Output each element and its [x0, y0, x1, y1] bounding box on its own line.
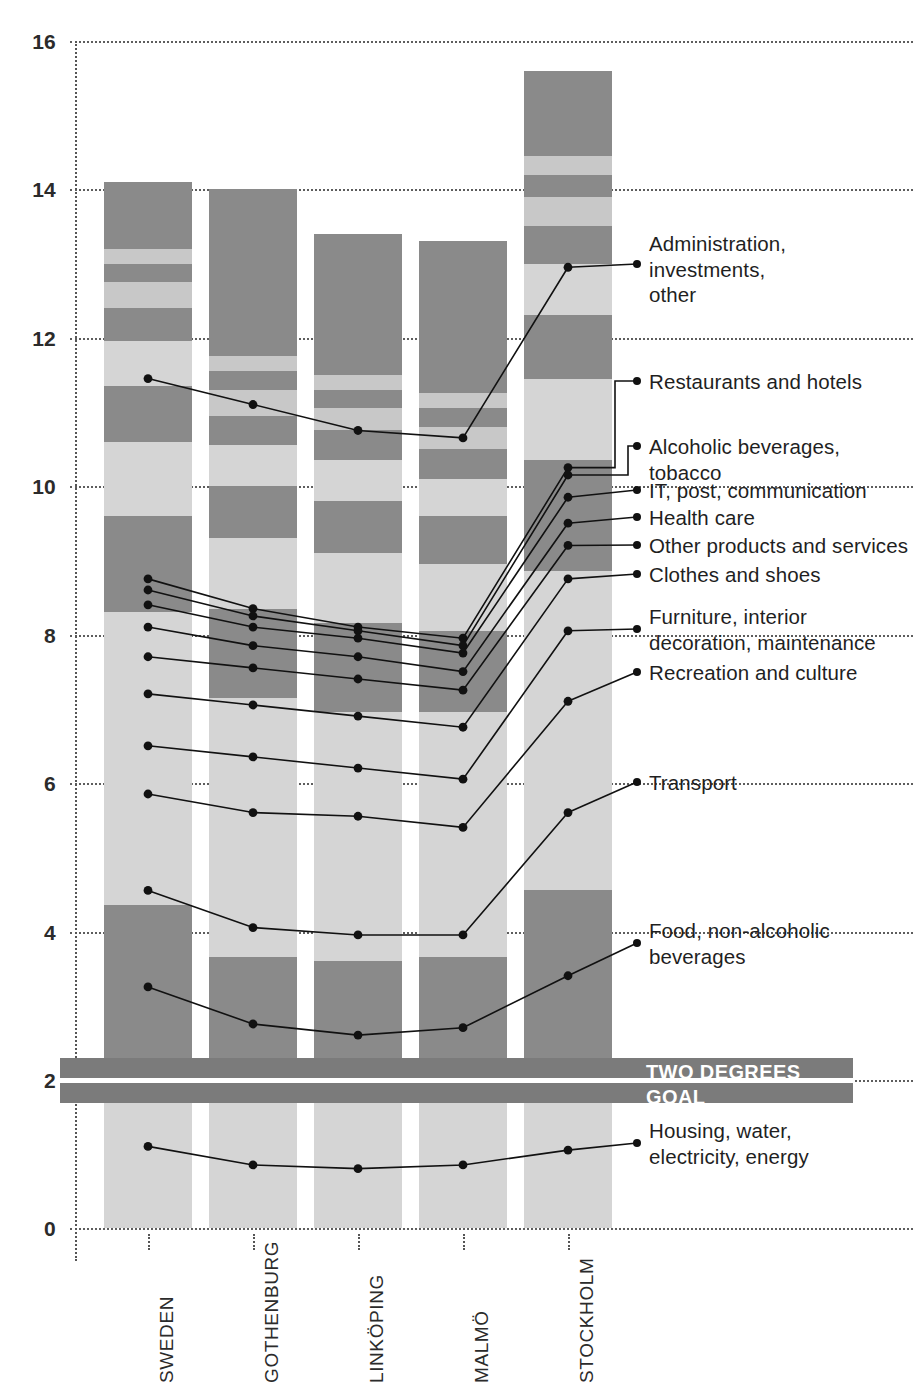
bar-segment — [104, 182, 192, 249]
xtick-label-sweden: SWEDEN — [156, 1296, 178, 1383]
xtick-mark-sweden — [148, 1234, 150, 1250]
ytick-10: 10 — [0, 475, 56, 499]
xtick-label-gothenburg: GOTHENBURG — [261, 1241, 283, 1383]
xtick-label-malmo: MALMÖ — [471, 1310, 493, 1383]
bar-segment — [314, 430, 402, 460]
bar-segment — [524, 175, 612, 197]
bar-segment — [524, 315, 612, 378]
bar-segment — [419, 479, 507, 516]
gridline-0 — [70, 1228, 913, 1230]
bar-segment — [314, 1102, 402, 1228]
bar-segment — [314, 375, 402, 390]
bar-segment — [104, 386, 192, 442]
xtick-label-stockholm: STOCKHOLM — [576, 1258, 598, 1383]
xtick-mark-stockholm — [568, 1234, 570, 1250]
bar-segment — [314, 408, 402, 430]
two-degrees-line2: GOAL — [646, 1085, 800, 1110]
bar-stockholm[interactable] — [524, 71, 612, 1228]
xtick-mark-malmo — [463, 1234, 465, 1250]
bar-segment — [524, 264, 612, 316]
xtick-mark-gothenburg — [253, 1234, 255, 1250]
bar-segment — [104, 442, 192, 516]
callout-transport: Transport — [649, 770, 737, 796]
ytick-4: 4 — [0, 921, 56, 945]
bar-segment — [104, 282, 192, 308]
callout-anchor-dot — [633, 939, 641, 947]
callout-anchor-dot — [633, 570, 641, 578]
bar-segment — [524, 71, 612, 156]
bar-segment — [314, 460, 402, 501]
callout-clothes: Clothes and shoes — [649, 562, 821, 588]
bar-segment — [209, 416, 297, 446]
callout-anchor-dot — [633, 442, 641, 450]
xtick-label-linkoping: LINKÖPING — [366, 1274, 388, 1383]
callout-food: Food, non-alcoholic beverages — [649, 918, 830, 969]
bar-segment — [419, 241, 507, 393]
bar-segment — [209, 390, 297, 416]
bar-segment — [419, 631, 507, 713]
bar-segment — [104, 516, 192, 612]
bar-segment — [419, 516, 507, 564]
bar-segment — [209, 609, 297, 698]
ytick-8: 8 — [0, 624, 56, 648]
callout-anchor-dot — [633, 1139, 641, 1147]
bar-segment — [419, 564, 507, 631]
bar-segment — [419, 449, 507, 479]
callout-anchor-dot — [633, 668, 641, 676]
xtick-mark-linkoping — [358, 1234, 360, 1250]
ytick-0: 0 — [0, 1217, 56, 1241]
ytick-6: 6 — [0, 772, 56, 796]
bar-segment — [104, 308, 192, 341]
bar-segment — [104, 905, 192, 1065]
bar-segment — [209, 1094, 297, 1228]
bar-segment — [419, 427, 507, 449]
callout-restaurants: Restaurants and hotels — [649, 369, 862, 395]
bar-segment — [209, 445, 297, 486]
callout-anchor-dot — [633, 541, 641, 549]
bar-segment — [419, 408, 507, 427]
ytick-16: 16 — [0, 30, 56, 54]
bar-segment — [209, 538, 297, 608]
bar-segment — [524, 197, 612, 227]
callout-recreation: Recreation and culture — [649, 660, 857, 686]
callout-furniture: Furniture, interior decoration, maintena… — [649, 604, 876, 655]
bar-segment — [209, 486, 297, 538]
bar-segment — [104, 264, 192, 283]
callout-anchor-dot — [633, 377, 641, 385]
bar-segment — [419, 712, 507, 957]
bar-segment — [314, 712, 402, 961]
bar-segment — [104, 341, 192, 386]
bar-segment — [419, 393, 507, 408]
bar-segment — [314, 553, 402, 623]
bar-segment — [524, 571, 612, 890]
bar-segment — [209, 189, 297, 356]
bar-segment — [104, 249, 192, 264]
callout-anchor-dot — [633, 625, 641, 633]
callout-housing: Housing, water, electricity, energy — [649, 1118, 809, 1169]
callout-it-post: IT, post, communication — [649, 478, 867, 504]
bar-segment — [209, 371, 297, 390]
callout-anchor-dot — [633, 513, 641, 521]
gridline-14 — [70, 189, 913, 191]
bar-segment — [524, 156, 612, 175]
callout-administration: Administration, investments, other — [649, 231, 786, 308]
chart-page: 16 14 12 10 8 6 4 2 0 TWO DEGREES GOAL S… — [0, 0, 913, 1399]
bar-segment — [314, 390, 402, 409]
ytick-2: 2 — [0, 1069, 56, 1093]
bar-segment — [524, 460, 612, 571]
two-degrees-line1: TWO DEGREES — [646, 1060, 800, 1085]
two-degrees-label: TWO DEGREES GOAL — [646, 1060, 800, 1110]
bar-segment — [314, 501, 402, 553]
bar-segment — [209, 698, 297, 958]
chart-plot-area: 16 14 12 10 8 6 4 2 0 TWO DEGREES GOAL S… — [0, 0, 913, 1399]
bar-segment — [104, 612, 192, 905]
bar-segment — [314, 234, 402, 375]
gridline-16 — [70, 41, 913, 43]
bar-segment — [419, 1094, 507, 1228]
callout-anchor-dot — [633, 260, 641, 268]
ytick-14: 14 — [0, 178, 56, 202]
bar-segment — [314, 623, 402, 712]
callout-other-products: Other products and services — [649, 533, 908, 559]
bar-segment — [524, 379, 612, 461]
bar-segment — [524, 890, 612, 1064]
